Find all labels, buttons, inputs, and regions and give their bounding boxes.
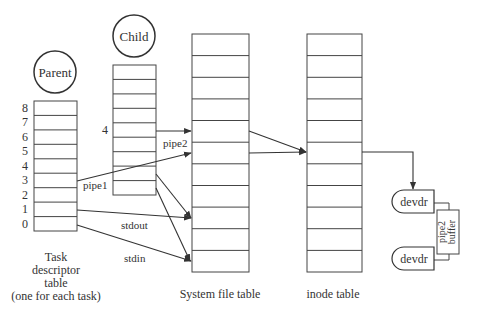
parent-table-caption: Task descriptor table (one for each task… [11, 250, 101, 303]
label-stdin: stdin [124, 252, 146, 264]
label-stdout: stdout [121, 219, 148, 231]
row-label-0: 0 [22, 217, 28, 231]
arrow-inode-to-devdr [362, 152, 413, 189]
row-label-3: 3 [22, 173, 28, 187]
child-node: Child [113, 15, 155, 57]
svg-text:devdr: devdr [400, 252, 427, 266]
inode-table-caption: inode table [307, 287, 360, 301]
arrow-child-stdin [156, 188, 190, 261]
row-label-5: 5 [22, 144, 28, 158]
row-label-2: 2 [22, 188, 28, 202]
row-label-8: 8 [22, 101, 28, 115]
svg-text:(one for each task): (one for each task) [11, 289, 101, 303]
parent-node: Parent [34, 51, 76, 93]
system-file-table-caption: System file table [180, 287, 261, 301]
parent-row-labels: 8 7 6 5 4 3 2 1 0 [22, 101, 28, 231]
pipe2-buffer: pipe2 buffer [436, 210, 459, 254]
svg-text:descriptor: descriptor [32, 263, 80, 277]
svg-text:Task: Task [45, 250, 68, 264]
system-file-table [192, 34, 249, 272]
parent-label: Parent [38, 65, 72, 80]
arrow-sys-to-inode-1 [249, 131, 306, 152]
row-label-7: 7 [22, 115, 28, 129]
devdr-bottom: devdr [392, 247, 434, 270]
inode-table [307, 34, 362, 272]
row-label-1: 1 [22, 202, 28, 216]
child-descriptor-table [113, 65, 156, 195]
pipe-diagram: Parent Child 8 7 6 5 4 3 2 1 0 Task desc… [0, 0, 478, 318]
child-row-label-4: 4 [102, 123, 108, 137]
child-label: Child [120, 29, 149, 44]
arrow-sys-to-inode-2 [249, 152, 306, 153]
parent-descriptor-table [34, 101, 77, 231]
svg-text:table: table [44, 276, 67, 290]
devdr-top: devdr [392, 190, 434, 213]
arrow-parent-stdout [77, 210, 191, 218]
row-label-4: 4 [22, 159, 28, 173]
label-pipe1: pipe1 [83, 179, 107, 191]
label-pipe2: pipe2 [163, 137, 187, 149]
svg-text:devdr: devdr [400, 195, 427, 209]
row-label-6: 6 [22, 130, 28, 144]
arrow-child-stdout [156, 174, 191, 218]
svg-text:buffer: buffer [446, 219, 457, 244]
